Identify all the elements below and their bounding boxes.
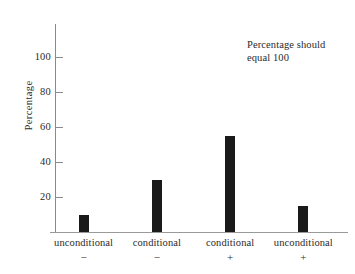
y-axis-tick-label-text: 80: [5, 87, 51, 97]
y-axis-tick-label: 100: [0, 52, 51, 62]
x-axis-label-sign: +: [253, 250, 353, 265]
annotation-line-1: Percentage should: [247, 38, 355, 51]
bar: [79, 215, 89, 233]
annotation-line-2: equal 100: [247, 51, 355, 64]
bar: [298, 206, 308, 232]
bar: [152, 180, 162, 233]
y-axis-tick-label-text: 100: [5, 52, 51, 62]
y-axis-tick-label: 60: [0, 122, 51, 132]
x-axis-label-group: unconditional+: [253, 236, 353, 265]
y-axis-tick-label-text: 20: [5, 192, 51, 202]
y-axis-tick-label-text: 40: [5, 157, 51, 167]
bar: [225, 136, 235, 232]
bar-chart-figure: Percentage 20406080100 unconditional−con…: [0, 0, 355, 274]
x-axis-line: [50, 232, 348, 233]
x-axis-label-name: unconditional: [253, 236, 353, 250]
y-axis-tick-label-text: 60: [5, 122, 51, 132]
y-axis-tick-label: 80: [0, 87, 51, 97]
annotation-note: Percentage should equal 100: [247, 38, 355, 64]
y-axis-tick-label: 40: [0, 157, 51, 167]
y-axis-title: Percentage: [23, 56, 34, 156]
y-axis-tick-label: 20: [0, 192, 51, 202]
